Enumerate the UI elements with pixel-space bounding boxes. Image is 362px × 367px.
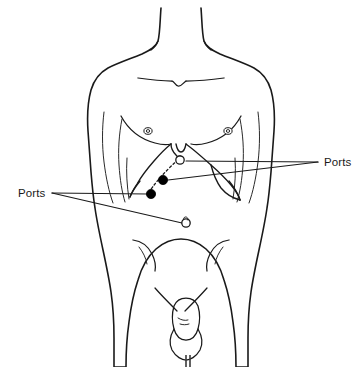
annotation-label-ports-left: Ports xyxy=(18,187,45,199)
meatus-line xyxy=(180,324,189,325)
port-marker-upper-dot[interactable] xyxy=(158,175,167,184)
inguinal-crease-right xyxy=(185,288,207,311)
port-placement-diagram: Ports Ports xyxy=(0,0,362,367)
torso-outline xyxy=(88,8,275,367)
annotation-label-ports-right: Ports xyxy=(324,156,351,168)
penis-outline xyxy=(173,298,200,340)
torso-outline-group xyxy=(88,8,275,367)
nipple-left xyxy=(144,128,152,135)
port-marker-xiphoid[interactable] xyxy=(176,156,184,164)
nipple-right xyxy=(224,128,232,135)
port-marker-lower-dot[interactable] xyxy=(146,189,155,198)
anatomy-illustration: Ports Ports xyxy=(0,0,362,367)
glans-line xyxy=(178,318,188,320)
